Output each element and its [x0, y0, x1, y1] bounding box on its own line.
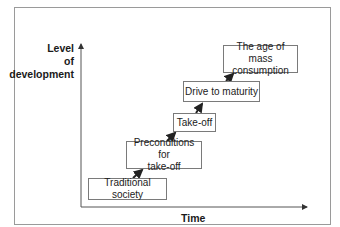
stage-preconditions: Preconditions for take-off [126, 141, 202, 169]
stage-label: Traditional society [89, 177, 166, 201]
stage-traditional-society: Traditional society [88, 178, 167, 200]
stage-drive-to-maturity: Drive to maturity [183, 81, 260, 102]
stage-label: Drive to maturity [185, 86, 258, 98]
stage-label-line: The age of mass [224, 41, 297, 65]
stage-mass-consumption: The age of mass consumption [223, 45, 298, 73]
arrow-3 [196, 104, 202, 113]
axes-and-arrows [0, 0, 340, 227]
stage-label: Take-off [177, 117, 212, 129]
stage-label: The age of mass consumption [224, 41, 297, 77]
stage-label-line: Preconditions for [127, 137, 201, 161]
stage-label-line: consumption [224, 65, 297, 77]
stage-take-off: Take-off [173, 113, 216, 132]
stage-label-line: take-off [127, 161, 201, 173]
stage-label: Preconditions for take-off [127, 137, 201, 173]
